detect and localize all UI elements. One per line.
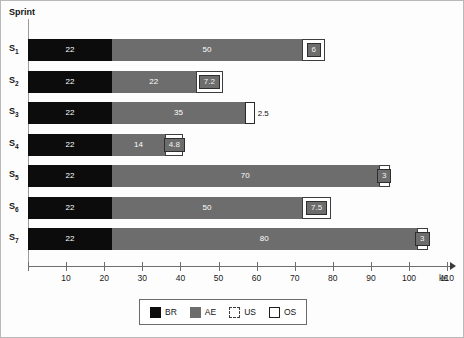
- x-axis-tick: [28, 262, 29, 271]
- x-axis-tick-label: 10: [61, 273, 70, 283]
- bar-segment-ae: 70: [112, 165, 379, 187]
- x-axis-tick: [333, 262, 334, 271]
- bar-segment-ae: 50: [112, 39, 303, 61]
- x-axis-tick: [180, 262, 181, 271]
- bar-segment-us: 6: [302, 39, 325, 61]
- legend-label: OS: [284, 307, 296, 317]
- bar-segment-us: 3: [379, 165, 390, 187]
- bar-segment-value: 50: [203, 46, 212, 54]
- legend-label: US: [244, 307, 256, 317]
- legend-label: BR: [165, 307, 177, 317]
- bar-segment-br: 22: [28, 39, 112, 61]
- bar-segment-ae: 14: [112, 134, 165, 156]
- bar-row-label: S4: [9, 138, 19, 150]
- bar-segment-ae: 80: [112, 228, 417, 250]
- bar-segment-br: 22: [28, 165, 112, 187]
- legend-item-os[interactable]: OS: [269, 307, 296, 318]
- bar-row: S322352.5: [1, 102, 464, 124]
- bar-segment-ae: 35: [112, 102, 245, 124]
- bar-segment-value: 6: [307, 43, 321, 57]
- x-axis-tick: [371, 262, 372, 271]
- bar-row-label: S1: [9, 43, 19, 55]
- bar-segment-br: 22: [28, 102, 112, 124]
- bar-segment-us: 4.8: [165, 134, 183, 156]
- bar-segment-value: 22: [65, 46, 74, 54]
- legend-item-us[interactable]: US: [229, 307, 256, 318]
- legend-swatch-icon: [190, 307, 201, 318]
- bar-segment-value: 22: [65, 109, 74, 117]
- y-axis-title: Sprint: [9, 7, 35, 17]
- x-axis-tick-label: 70: [290, 273, 299, 283]
- x-axis-arrow-icon: [450, 262, 456, 270]
- bar-row-label: S6: [9, 201, 19, 213]
- bar-segment-value: 14: [134, 141, 143, 149]
- x-axis-tick-label: 80: [328, 273, 337, 283]
- bar-segment-br: 22: [28, 228, 112, 250]
- bar-row-label: S2: [9, 75, 19, 87]
- x-axis-tick: [409, 262, 410, 271]
- x-axis-tick-label: 90: [366, 273, 375, 283]
- bar-segment-ae: 22: [112, 71, 196, 93]
- x-axis-tick: [257, 262, 258, 271]
- x-axis-tick-label: 50: [214, 273, 223, 283]
- legend-item-ae[interactable]: AE: [190, 307, 216, 318]
- bar-segment-value: 7.2: [199, 75, 220, 89]
- x-axis-tick-label: 20: [99, 273, 108, 283]
- legend-swatch-icon: [229, 307, 240, 318]
- x-axis-tick: [66, 262, 67, 271]
- bar-segment-value: 3: [377, 169, 391, 183]
- bar-segment-ae: 50: [112, 197, 303, 219]
- x-axis-line: [28, 266, 452, 267]
- bar-segment-value: 22: [65, 172, 74, 180]
- x-axis-tick-label: 100: [402, 273, 416, 283]
- bar-row: S722803: [1, 228, 464, 250]
- bar-segment-br: 22: [28, 134, 112, 156]
- bar-segment-value: 3: [415, 232, 429, 246]
- bar-segment-value: 80: [260, 235, 269, 243]
- x-axis-tick: [219, 262, 220, 271]
- x-axis-tick: [142, 262, 143, 271]
- bar-row: S222227.2: [1, 71, 464, 93]
- x-axis-tick: [295, 262, 296, 271]
- bar-segment-value: 22: [65, 204, 74, 212]
- x-axis-tick-label: 60: [252, 273, 261, 283]
- bar-row: S422144.8: [1, 134, 464, 156]
- bar-segment-value: 35: [174, 109, 183, 117]
- bar-segment-value: 50: [203, 204, 212, 212]
- bar-row: S622507.5: [1, 197, 464, 219]
- bar-segment-br: 22: [28, 71, 112, 93]
- bar-row: S522703: [1, 165, 464, 187]
- bar-segment-value: 22: [65, 78, 74, 86]
- chart-legend: BRAEUSOS: [139, 299, 307, 325]
- legend-item-br[interactable]: BR: [150, 307, 177, 318]
- x-axis-tick-label: 40: [176, 273, 185, 283]
- bar-segment-value: 22: [65, 235, 74, 243]
- stacked-bar-chart: Sprint 102030405060708090100110 k€ S1225…: [0, 0, 464, 338]
- legend-label: AE: [205, 307, 216, 317]
- x-axis-tick: [104, 262, 105, 271]
- bar-row-label: S3: [9, 106, 19, 118]
- bar-segment-value: 22: [65, 141, 74, 149]
- bar-segment-value: 22: [149, 78, 158, 86]
- bar-segment-br: 22: [28, 197, 112, 219]
- legend-swatch-icon: [269, 307, 280, 318]
- bar-segment-value-outside: 2.5: [255, 102, 269, 124]
- legend-swatch-icon: [150, 307, 161, 318]
- x-axis-tick-label: 30: [138, 273, 147, 283]
- bar-row-label: S7: [9, 232, 19, 244]
- bar-segment-value: 70: [241, 172, 250, 180]
- x-axis-unit-label: k€: [439, 273, 448, 283]
- bar-segment-us: 7.2: [196, 71, 223, 93]
- bar-segment-value: 7.5: [306, 201, 327, 215]
- x-axis-tick: [447, 262, 448, 271]
- bar-segment-us: 3: [417, 228, 428, 250]
- bar-segment-value: 4.8: [164, 138, 185, 152]
- bar-row-label: S5: [9, 169, 19, 181]
- bar-segment-os: [245, 102, 255, 124]
- bar-segment-us: 7.5: [302, 197, 331, 219]
- bar-row: S122506: [1, 39, 464, 61]
